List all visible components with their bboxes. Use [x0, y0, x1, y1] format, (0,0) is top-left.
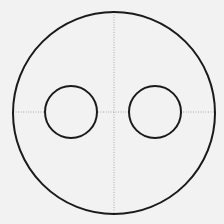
left-inner-circle — [45, 86, 97, 138]
diagram-svg — [0, 0, 224, 224]
right-inner-circle — [129, 86, 181, 138]
diagram-canvas — [0, 0, 224, 224]
